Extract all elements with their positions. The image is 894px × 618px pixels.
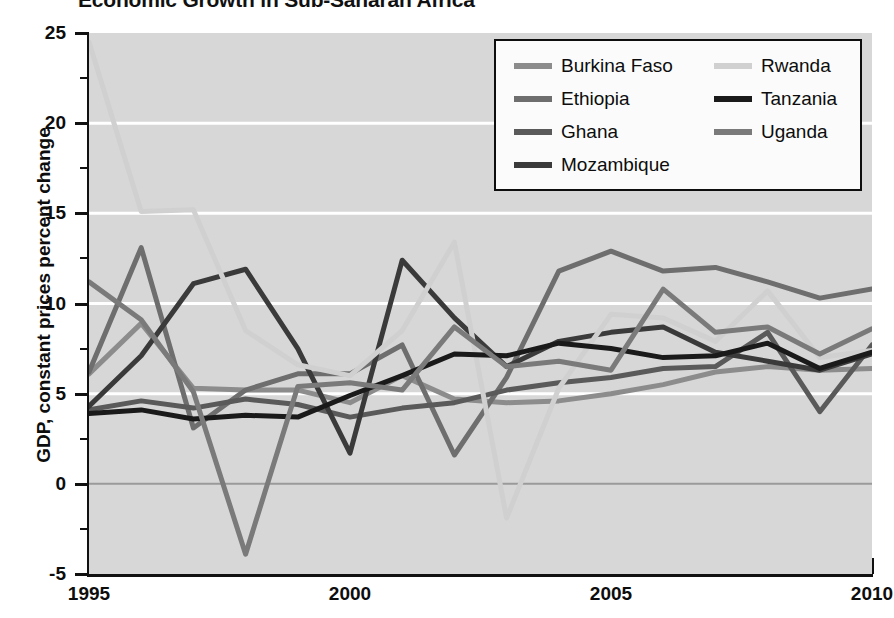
- x-tick-label: 2010: [827, 584, 894, 604]
- x-tick-label: 2005: [566, 584, 656, 604]
- legend-swatch-icon: [514, 63, 552, 69]
- y-tick-label: 10: [6, 294, 66, 313]
- legend-swatch-icon: [714, 96, 752, 102]
- x-tick-label: 1995: [44, 584, 134, 604]
- legend-item-mozambique[interactable]: Mozambique: [514, 148, 714, 181]
- chart-container: Economic Growth in Sub-Saharan Africa GD…: [0, 0, 894, 618]
- legend-swatch-icon: [514, 129, 552, 135]
- chart-legend: Burkina FasoEthiopiaGhanaMozambique Rwan…: [494, 39, 862, 191]
- legend-item-burkina-faso[interactable]: Burkina Faso: [514, 49, 714, 82]
- y-tick-label: 20: [6, 113, 66, 132]
- y-tick-label: 25: [6, 23, 66, 42]
- legend-column-right: RwandaTanzaniaUganda: [714, 49, 854, 148]
- legend-column-left: Burkina FasoEthiopiaGhanaMozambique: [514, 49, 714, 181]
- legend-item-label: Ghana: [561, 122, 618, 142]
- legend-item-label: Burkina Faso: [561, 56, 673, 76]
- legend-item-tanzania[interactable]: Tanzania: [714, 82, 854, 115]
- legend-item-uganda[interactable]: Uganda: [714, 115, 854, 148]
- x-tick-label: 2000: [305, 584, 395, 604]
- y-tick-label: -5: [6, 564, 66, 583]
- legend-swatch-icon: [514, 96, 552, 102]
- legend-item-label: Mozambique: [561, 155, 670, 175]
- legend-swatch-icon: [514, 162, 552, 168]
- legend-item-ghana[interactable]: Ghana: [514, 115, 714, 148]
- chart-title: Economic Growth in Sub-Saharan Africa: [78, 0, 778, 13]
- y-tick-label: 0: [6, 474, 66, 493]
- y-tick-label: 5: [6, 384, 66, 403]
- y-tick-label: 15: [6, 203, 66, 222]
- legend-swatch-icon: [714, 129, 752, 135]
- legend-item-label: Ethiopia: [561, 89, 630, 109]
- legend-item-ethiopia[interactable]: Ethiopia: [514, 82, 714, 115]
- legend-item-label: Uganda: [761, 122, 828, 142]
- legend-item-label: Tanzania: [761, 89, 837, 109]
- legend-item-label: Rwanda: [761, 56, 831, 76]
- legend-swatch-icon: [714, 63, 752, 69]
- legend-item-rwanda[interactable]: Rwanda: [714, 49, 854, 82]
